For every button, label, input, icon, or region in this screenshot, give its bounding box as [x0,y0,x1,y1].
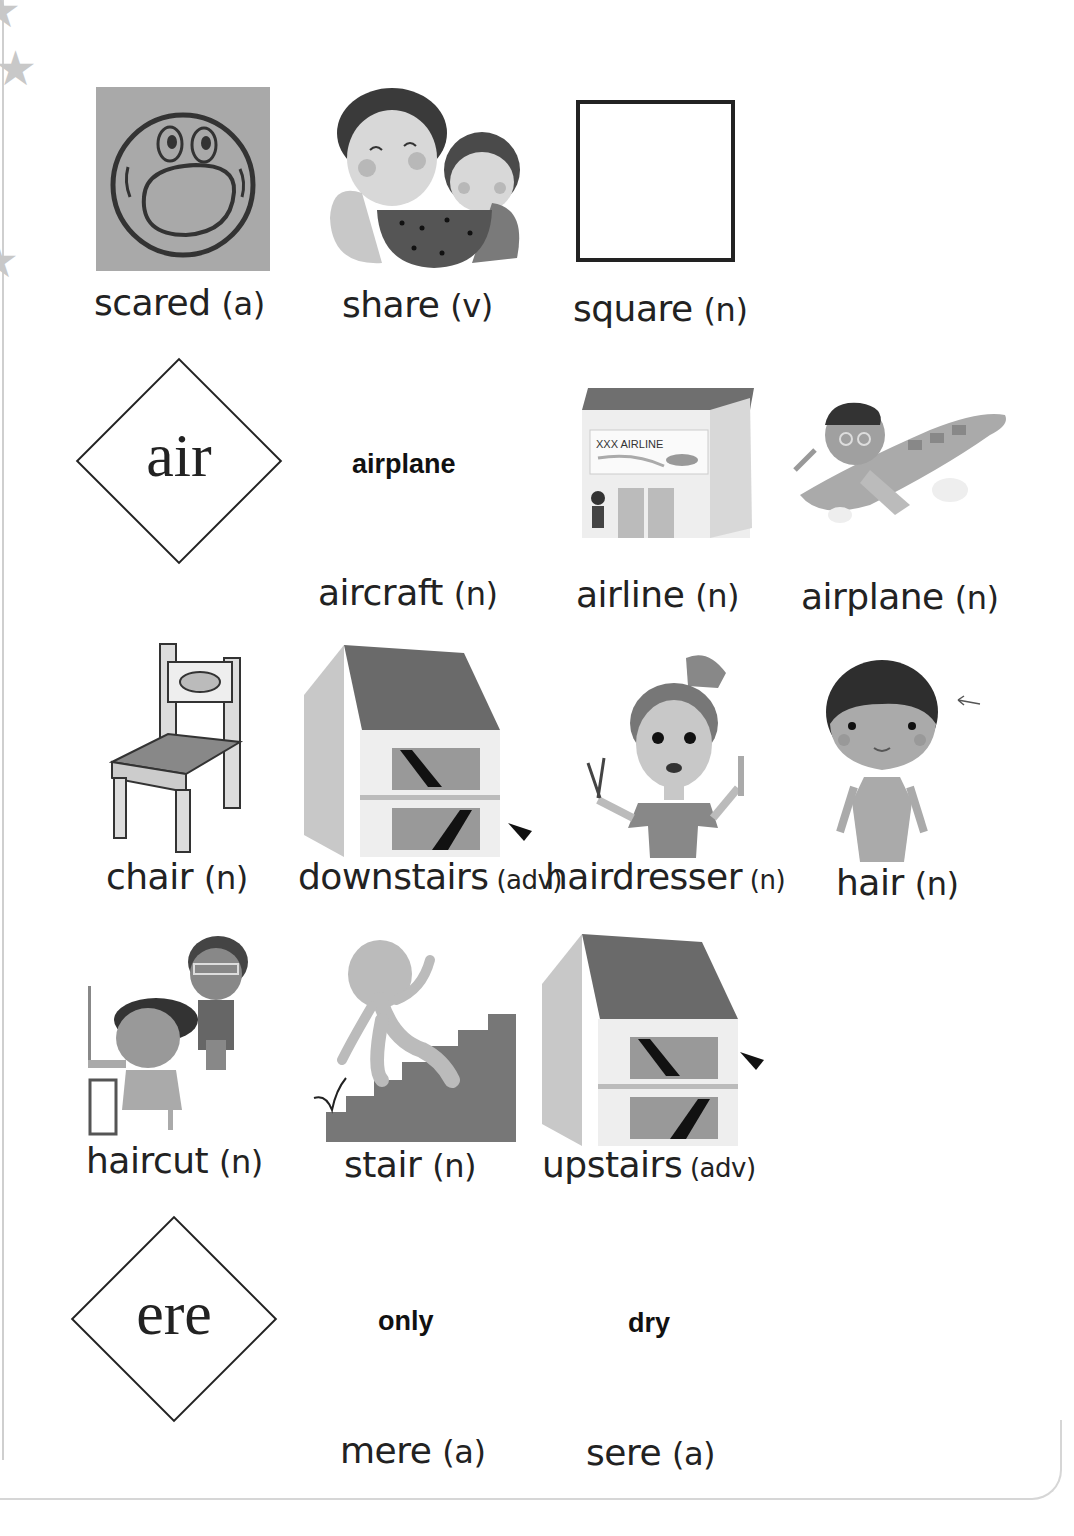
word-label-airline: airline (n) [576,574,739,615]
mother-child-sharing-watermelon-illustration [322,88,522,272]
scared-face-image [96,87,270,271]
hint-word-only: only [378,1306,434,1337]
barber-cutting-hair-illustration [86,930,266,1136]
airline-sign-text: XXX AIRLINE [596,438,663,450]
house-downstairs-arrow-illustration [304,645,536,859]
word-label-downstairs: downstairs (adv) [298,856,562,897]
word-label-aircraft: aircraft (n) [318,572,498,613]
word-label-airplane: airplane (n) [801,576,998,617]
star-icon: ★ [0,0,21,34]
wooden-chair-illustration [108,644,248,854]
word-label-scared: scared (a) [94,282,265,323]
word-label-upstairs: upstairs (adv) [542,1144,756,1185]
word-label-haircut: haircut (n) [86,1140,263,1181]
boy-hair-arrow-illustration [812,652,992,862]
scared-face-icon [96,87,270,271]
word-label-sere: sere (a) [586,1432,715,1473]
house-upstairs-arrow-illustration [542,934,774,1148]
airline-office-illustration: XXX AIRLINE [574,388,756,546]
pattern-label-air: air [79,420,279,491]
word-label-chair: chair (n) [106,856,248,897]
word-label-square: square (n) [573,288,747,329]
margin-line [2,0,4,1460]
square-outline-icon [576,100,735,262]
word-label-hairdresser: hairdresser (n) [545,856,785,897]
pattern-label-ere: ere [74,1278,274,1349]
boy-riding-airplane-illustration [790,395,1010,525]
star-icon: ★ [0,236,19,284]
word-label-mere: mere (a) [340,1430,485,1471]
checkmark-icon [314,1078,346,1110]
figure-climbing-stairs-illustration [312,930,522,1144]
hint-word-airplane: airplane [352,449,456,480]
page-border [0,1420,1062,1500]
word-label-stair: stair (n) [344,1144,476,1185]
word-label-share: share (v) [342,284,493,325]
hint-word-dry: dry [628,1308,670,1339]
arrow-icon [958,696,980,705]
hairdresser-woman-illustration [578,648,768,858]
word-label-hair: hair (n) [836,862,958,903]
star-icon: ★ [0,44,37,92]
